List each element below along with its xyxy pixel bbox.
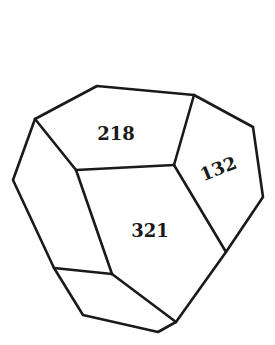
edge-lower-left (54, 268, 112, 274)
edge-218-right (174, 95, 194, 165)
face-label-132: 132 (197, 152, 240, 186)
face-label-218: 218 (97, 123, 135, 144)
edge-321-left (76, 170, 112, 274)
crystal-diagram: 218 132 321 (0, 0, 275, 345)
face-label-321: 321 (131, 220, 169, 241)
edge-lower-diagonal (112, 274, 176, 322)
edge-218-bottom (76, 165, 174, 170)
edge-218-left (35, 119, 76, 170)
